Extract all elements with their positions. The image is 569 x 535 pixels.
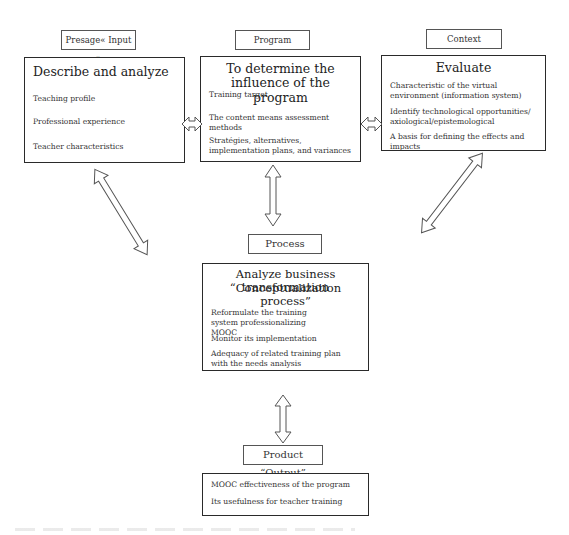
double-arrow-icon (415, 148, 489, 237)
double-arrow-icon (361, 117, 382, 131)
connector-arrows (0, 0, 569, 535)
double-arrow-icon (182, 117, 202, 131)
double-arrow-icon (265, 165, 281, 226)
double-arrow-icon (88, 165, 154, 259)
cropped-caption-strip (15, 528, 355, 531)
double-arrow-icon (275, 395, 291, 443)
